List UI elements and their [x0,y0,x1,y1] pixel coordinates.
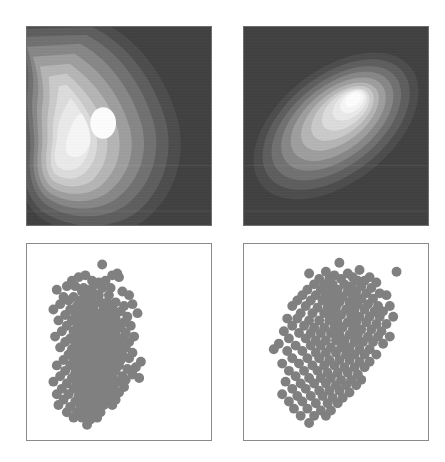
scatter-point [360,362,370,372]
scatter-point [334,258,344,268]
panel-density-contour-diagonal [243,26,429,226]
scatter-point [304,269,314,279]
scatter-point [114,272,124,282]
scatter-point [287,301,297,311]
scatter-point [281,377,291,387]
scatter-point [289,404,299,414]
scatter-point [52,285,62,295]
scatter-point [124,353,134,363]
scatter-point [54,400,64,410]
scatter-point [277,359,287,369]
scatter-point [388,312,398,322]
scatter-point [304,418,314,428]
scatter-point [296,411,306,421]
scatter-plot-diagonal [244,244,428,440]
scatter-point [55,342,65,352]
scatter-point [351,380,361,390]
figure-canvas [0,0,445,462]
scatter-point [124,290,134,300]
scatter-point [133,308,143,318]
scatter-point [284,333,294,343]
panel-density-contour-vertical [26,26,212,226]
scatter-point [378,339,388,349]
contour-peak-core [90,107,116,139]
scatter-point [269,344,279,354]
scatter-points-group [269,258,402,428]
scatter-point [97,260,107,270]
scatter-point [392,267,402,277]
scatter-point [385,332,395,342]
scatter-point [287,321,297,331]
scatter-point [382,290,392,300]
scatter-point [333,398,343,408]
scatter-point [302,404,312,414]
panel-scatter-vertical [26,243,212,441]
contour-plot-diagonal [244,27,428,225]
scatter-point [128,299,138,309]
scatter-point [134,373,144,383]
scatter-point [54,315,64,325]
scatter-point [50,332,60,342]
panel-scatter-diagonal [243,243,429,441]
scatter-point [48,377,58,387]
scatter-point [52,360,62,370]
contour-plot-vertical [27,27,211,225]
scatter-point [107,400,117,410]
scatter-points-group [48,260,145,430]
scatter-point [48,305,58,315]
scatter-point [92,413,102,423]
scatter-point [64,296,74,306]
scatter-point [321,411,331,421]
scatter-point [355,265,365,275]
scatter-point [277,389,287,399]
scatter-point [371,350,381,360]
scatter-plot-vertical [27,244,211,440]
scatter-point [69,413,79,423]
scatter-point [82,420,92,430]
